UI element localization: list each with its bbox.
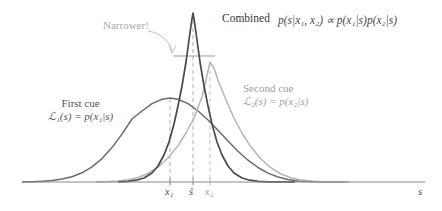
x-axis-label: s [418, 186, 422, 198]
first-cue-formula: ℒ₁(s) = p(x₁|s) [48, 110, 113, 123]
second-cue-formula: ℒ₂(s) = p(x₂|s) [243, 95, 308, 108]
second-cue-curve [96, 62, 350, 182]
tick-label-s-hat: ŝ [189, 186, 193, 198]
second-cue-annotation: Second cue ℒ₂(s) = p(x₂|s) [243, 82, 308, 108]
first-cue-annotation: First cue ℒ₁(s) = p(x₁|s) [48, 97, 113, 123]
narrower-leader-line [148, 31, 172, 50]
combined-label: Combined [222, 12, 270, 26]
second-cue-name: Second cue [243, 82, 308, 95]
narrower-annotation: Narrower! [103, 19, 149, 32]
tick-label-x1: x₁ [165, 186, 173, 198]
posterior-formula: p(s|x₁, x₂) ∝ p(x₁|s)p(x₂|s) [278, 14, 397, 28]
tick-label-x2: x₂ [205, 186, 213, 198]
first-cue-name: First cue [48, 97, 113, 110]
bayesian-cue-combination-figure: Combined Narrower! p(s|x₁, x₂) ∝ p(x₁|s)… [0, 0, 442, 211]
